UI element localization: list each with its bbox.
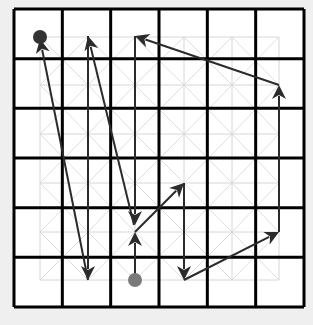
- grid-path-diagram: [0, 0, 313, 325]
- end-dot: [33, 30, 47, 44]
- start-dot: [128, 273, 142, 287]
